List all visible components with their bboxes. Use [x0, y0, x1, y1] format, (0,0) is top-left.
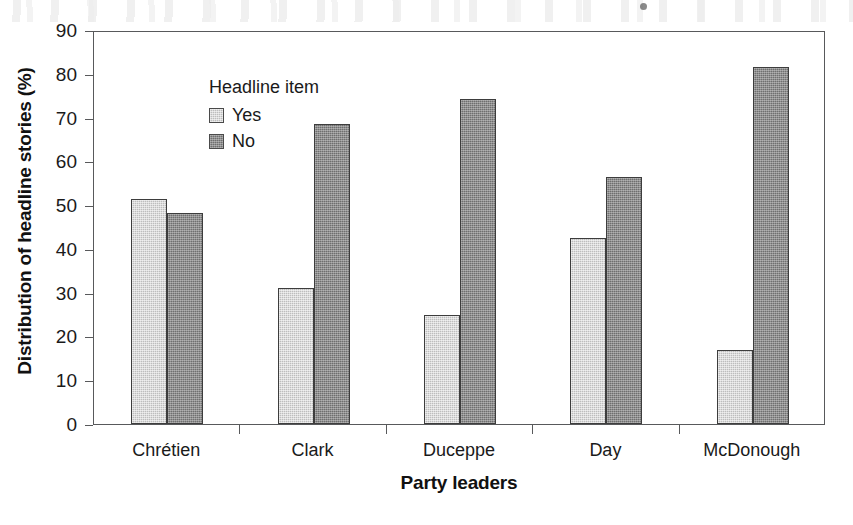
- bar-yes[interactable]: [131, 199, 167, 424]
- legend-label-yes: Yes: [232, 106, 261, 124]
- y-axis-tick: [85, 75, 93, 76]
- y-axis-tick: [85, 250, 93, 251]
- grouped-bar-chart: Distribution of headline stories (%) 010…: [0, 0, 853, 525]
- bar-group: [717, 32, 789, 424]
- x-axis-category-label: McDonough: [679, 440, 825, 460]
- y-axis-tick: [85, 31, 93, 32]
- y-axis-tick-label: 90: [41, 21, 77, 40]
- legend-title: Headline item: [209, 76, 389, 98]
- bar-group: [424, 32, 496, 424]
- y-axis-tick: [85, 206, 93, 207]
- bar-no[interactable]: [753, 67, 789, 424]
- y-axis-tick: [85, 425, 93, 426]
- bar-no[interactable]: [460, 99, 496, 424]
- legend-swatch-no-icon: [209, 134, 224, 149]
- y-axis-tick-label: 80: [41, 65, 77, 84]
- y-axis-tick-label: 10: [41, 371, 77, 390]
- y-axis-tick-label: 30: [41, 284, 77, 303]
- legend-swatch-yes-icon: [209, 108, 224, 123]
- y-axis-tick-label: 70: [41, 109, 77, 128]
- y-axis-tick: [85, 162, 93, 163]
- x-axis-category-label: Day: [532, 440, 678, 460]
- bar-no[interactable]: [314, 124, 350, 424]
- bar-yes[interactable]: [278, 288, 314, 424]
- x-axis-category-label: Chrétien: [93, 440, 239, 460]
- bar-group: [131, 32, 203, 424]
- x-axis-tick: [532, 425, 533, 434]
- x-axis-title: Party leaders: [93, 472, 825, 494]
- y-axis-tick: [85, 381, 93, 382]
- legend-item-yes: Yes: [209, 102, 389, 128]
- plot-area: Headline item Yes No: [93, 31, 825, 425]
- bar-yes[interactable]: [424, 315, 460, 424]
- y-axis-tick: [85, 294, 93, 295]
- y-axis-tick-label: 50: [41, 196, 77, 215]
- chart-legend: Headline item Yes No: [209, 76, 389, 154]
- x-axis-tick: [386, 425, 387, 434]
- y-axis-tick-label: 20: [41, 327, 77, 346]
- legend-item-no: No: [209, 128, 389, 154]
- x-axis-category-label: Clark: [239, 440, 385, 460]
- x-axis-category-label: Duceppe: [386, 440, 532, 460]
- bar-yes[interactable]: [570, 238, 606, 424]
- legend-label-no: No: [232, 132, 255, 150]
- y-axis-tick: [85, 337, 93, 338]
- bar-no[interactable]: [606, 177, 642, 424]
- y-axis-tick-label: 0: [41, 415, 77, 434]
- x-axis-tick: [679, 425, 680, 434]
- y-axis-tick: [85, 119, 93, 120]
- y-axis-tick-label: 60: [41, 152, 77, 171]
- bar-yes[interactable]: [717, 350, 753, 424]
- bar-no[interactable]: [167, 213, 203, 424]
- x-axis-tick: [239, 425, 240, 434]
- y-axis-title: Distribution of headline stories (%): [14, 21, 36, 421]
- bar-group: [570, 32, 642, 424]
- bars-layer: [94, 32, 824, 424]
- y-axis-tick-label: 40: [41, 240, 77, 259]
